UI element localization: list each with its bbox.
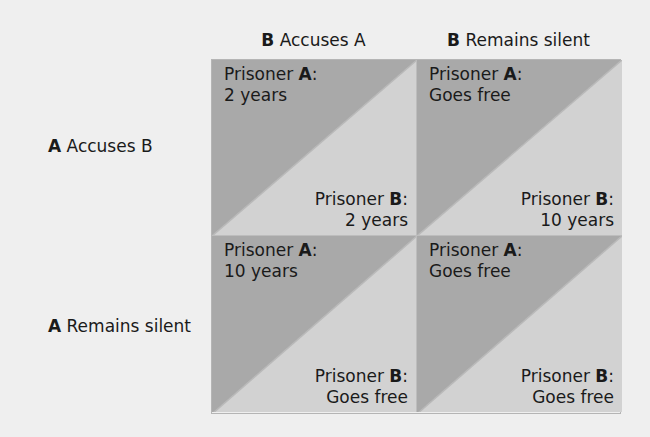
column-header-label: Accuses A bbox=[274, 30, 365, 50]
prisoner-letter: A bbox=[504, 240, 517, 260]
player-a-label: A bbox=[48, 316, 61, 336]
prisoner-a-outcome: Prisoner A: Goes free bbox=[429, 240, 522, 282]
sentence-value: Goes free bbox=[429, 85, 511, 105]
row-header-label: Remains silent bbox=[61, 316, 191, 336]
prisoner-label: Prisoner bbox=[315, 366, 390, 386]
row-header-a-silent: A Remains silent bbox=[48, 316, 191, 336]
prisoner-a-outcome: Prisoner A: Goes free bbox=[429, 64, 522, 106]
sentence-value: 2 years bbox=[345, 210, 408, 230]
prisoner-b-outcome: Prisoner B: Goes free bbox=[521, 366, 614, 408]
prisoner-letter: B bbox=[595, 189, 608, 209]
column-header-b-silent: B Remains silent bbox=[416, 30, 621, 50]
player-b-label: B bbox=[447, 30, 460, 50]
prisoner-letter: B bbox=[389, 366, 402, 386]
column-header-label: Remains silent bbox=[460, 30, 590, 50]
prisoner-b-outcome: Prisoner B: Goes free bbox=[315, 366, 408, 408]
prisoner-label: Prisoner bbox=[429, 240, 504, 260]
player-a-label: A bbox=[48, 136, 61, 156]
prisoner-letter: B bbox=[595, 366, 608, 386]
prisoner-letter: A bbox=[299, 240, 312, 260]
player-b-label: B bbox=[261, 30, 274, 50]
payoff-cell-accuse-silent: Prisoner A: Goes free Prisoner B: 10 yea… bbox=[417, 60, 622, 236]
prisoner-label: Prisoner bbox=[224, 64, 299, 84]
prisoner-label: Prisoner bbox=[315, 189, 390, 209]
payoff-cell-accuse-accuse: Prisoner A: 2 years Prisoner B: 2 years bbox=[212, 60, 417, 236]
column-header-b-accuses: B Accuses A bbox=[211, 30, 416, 50]
prisoner-letter: A bbox=[504, 64, 517, 84]
prisoner-label: Prisoner bbox=[521, 366, 596, 386]
prisoner-a-outcome: Prisoner A: 10 years bbox=[224, 240, 317, 282]
payoff-cell-silent-accuse: Prisoner A: 10 years Prisoner B: Goes fr… bbox=[212, 236, 417, 412]
sentence-value: Goes free bbox=[326, 387, 408, 407]
row-header-a-accuses: A Accuses B bbox=[48, 136, 153, 156]
prisoner-b-outcome: Prisoner B: 2 years bbox=[315, 189, 408, 231]
prisoner-label: Prisoner bbox=[521, 189, 596, 209]
payoff-cell-silent-silent: Prisoner A: Goes free Prisoner B: Goes f… bbox=[417, 236, 622, 412]
sentence-value: 10 years bbox=[224, 261, 298, 281]
prisoner-b-outcome: Prisoner B: 10 years bbox=[521, 189, 614, 231]
row-header-label: Accuses B bbox=[61, 136, 152, 156]
prisoner-label: Prisoner bbox=[429, 64, 504, 84]
prisoner-letter: B bbox=[389, 189, 402, 209]
prisoner-letter: A bbox=[299, 64, 312, 84]
sentence-value: Goes free bbox=[532, 387, 614, 407]
prisoner-a-outcome: Prisoner A: 2 years bbox=[224, 64, 317, 106]
sentence-value: Goes free bbox=[429, 261, 511, 281]
sentence-value: 10 years bbox=[540, 210, 614, 230]
prisoner-label: Prisoner bbox=[224, 240, 299, 260]
payoff-matrix: Prisoner A: 2 years Prisoner B: 2 years … bbox=[211, 59, 621, 414]
sentence-value: 2 years bbox=[224, 85, 287, 105]
